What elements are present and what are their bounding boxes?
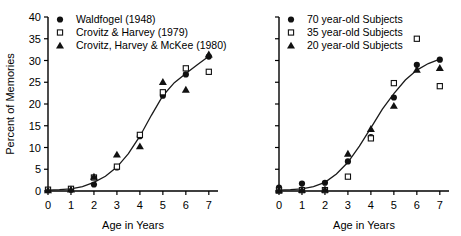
x-tick-label-4: 4 (368, 199, 374, 211)
series-2-pt-5-marker-open-square (160, 90, 165, 95)
y-axis-title: Percent of Memories (4, 53, 16, 155)
series-3-pt-3-marker-filled-triangle (113, 151, 121, 158)
series-2-pt-4-marker-open-square (137, 132, 142, 137)
series-3 (275, 64, 444, 193)
series-3-pt-7-marker-filled-triangle (436, 64, 444, 71)
chart-panel-left: 051015202530354001234567Age in YearsPerc… (0, 0, 230, 236)
series-1-pt-5-marker-filled-circle (391, 94, 397, 100)
legend-item-3-marker-filled-triangle (56, 42, 64, 49)
series-1 (45, 53, 212, 193)
y-tick-label-25: 25 (29, 76, 41, 88)
legend-item-2-marker-open-square (288, 30, 293, 35)
series-2-pt-4-marker-open-square (368, 136, 373, 141)
y-tick-label-0: 0 (35, 185, 41, 197)
legend-label-2: 35 year-old Subjects (307, 26, 403, 38)
x-tick-label-3: 3 (114, 199, 120, 211)
legend-item-1-marker-filled-circle (57, 16, 63, 22)
series-2-pt-6-marker-open-square (414, 36, 419, 41)
series-2 (276, 36, 442, 193)
x-tick-label-5: 5 (160, 199, 166, 211)
legend: 70 year-old Subjects35 year-old Subjects… (287, 13, 403, 51)
right-panel-plot: 01234567Age in Years70 year-old Subjects… (231, 0, 461, 236)
x-axis-ticks: 01234567 (276, 191, 443, 211)
y-tick-label-10: 10 (29, 142, 41, 154)
legend-item-2-marker-open-square (57, 30, 62, 35)
series-1 (276, 57, 443, 191)
legend: Waldfogel (1948)Crovitz & Harvey (1979)C… (56, 13, 227, 51)
series-3-pt-3-marker-filled-triangle (344, 150, 352, 157)
legend-label-3: 20 year-old Subjects (307, 39, 403, 51)
series-2-pt-7-marker-open-square (206, 69, 211, 74)
x-tick-label-4: 4 (137, 199, 143, 211)
series-3-pt-4-marker-filled-triangle (136, 142, 144, 149)
series-2-pt-7-marker-open-square (437, 84, 442, 89)
y-tick-label-20: 20 (29, 98, 41, 110)
legend-item-3-marker-filled-triangle (287, 42, 295, 49)
series-3-pt-6-marker-filled-triangle (182, 86, 190, 93)
x-tick-label-7: 7 (206, 199, 212, 211)
series-2-pt-3-marker-open-square (345, 174, 350, 179)
x-axis-ticks: 01234567 (45, 191, 212, 211)
x-tick-label-2: 2 (91, 199, 97, 211)
series-2 (45, 66, 211, 193)
series-2-pt-3-marker-open-square (114, 164, 119, 169)
legend-label-2: Crovitz & Harvey (1979) (76, 26, 188, 38)
series-3-pt-6-marker-filled-triangle (413, 66, 421, 73)
series-1-pt-6-marker-filled-circle (183, 71, 189, 77)
series-3-pt-4-marker-filled-triangle (367, 125, 375, 132)
x-tick-label-6: 6 (183, 199, 189, 211)
y-tick-label-15: 15 (29, 120, 41, 132)
x-tick-label-0: 0 (45, 199, 51, 211)
y-tick-label-30: 30 (29, 55, 41, 67)
series-3-pt-5-marker-filled-triangle (390, 102, 398, 109)
series-1-pt-2-marker-filled-circle (322, 180, 328, 186)
chart-panel-right: 01234567Age in Years70 year-old Subjects… (231, 0, 461, 236)
left-panel-plot: 051015202530354001234567Age in YearsPerc… (0, 0, 230, 236)
x-tick-label-1: 1 (299, 199, 305, 211)
series-2-pt-5-marker-open-square (391, 81, 396, 86)
legend-label-1: 70 year-old Subjects (307, 13, 403, 25)
series-1-pt-3-marker-filled-circle (345, 158, 351, 164)
legend-label-1: Waldfogel (1948) (76, 13, 156, 25)
y-tick-label-40: 40 (29, 11, 41, 23)
fit-curve (279, 59, 440, 190)
series-2-pt-6-marker-open-square (183, 66, 188, 71)
y-tick-label-5: 5 (35, 163, 41, 175)
x-tick-label-6: 6 (414, 199, 420, 211)
x-axis-title: Age in Years (102, 219, 164, 231)
legend-label-3: Crovitz, Harvey & McKee (1980) (76, 39, 227, 51)
series-1-pt-7-marker-filled-circle (437, 57, 443, 63)
y-tick-label-35: 35 (29, 33, 41, 45)
series-3-pt-7-marker-filled-triangle (205, 51, 213, 58)
figure-childhood-amnesia: 051015202530354001234567Age in YearsPerc… (0, 0, 461, 236)
series-1-pt-1-marker-filled-circle (299, 181, 305, 187)
x-axis-title: Age in Years (333, 219, 395, 231)
x-tick-label-2: 2 (322, 199, 328, 211)
series-1-pt-2-marker-filled-circle (91, 181, 97, 187)
x-tick-label-1: 1 (68, 199, 74, 211)
x-tick-label-3: 3 (345, 199, 351, 211)
x-tick-label-0: 0 (276, 199, 282, 211)
series-3-pt-5-marker-filled-triangle (159, 78, 167, 85)
x-tick-label-7: 7 (437, 199, 443, 211)
legend-item-1-marker-filled-circle (288, 16, 294, 22)
y-axis-ticks: 0510152025303540 (29, 11, 48, 197)
x-tick-label-5: 5 (391, 199, 397, 211)
